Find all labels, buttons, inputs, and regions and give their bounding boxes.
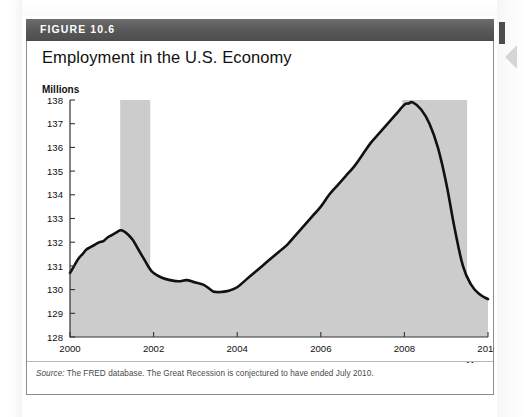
x-tick-label: 2004: [227, 343, 249, 354]
divider: [27, 361, 493, 362]
y-tick-label: 137: [47, 118, 63, 129]
y-tick-label: 132: [47, 237, 63, 248]
y-tick-label: 128: [47, 332, 63, 343]
y-tick-label: 129: [47, 308, 63, 319]
source-note: Source: The FRED database. The Great Rec…: [36, 369, 476, 378]
figure-number-badge: FIGURE 10.6: [40, 23, 115, 35]
source-label: Source:: [36, 369, 65, 378]
figure-page: FIGURE 10.6 Employment in the U.S. Econo…: [0, 0, 527, 417]
y-tick-label: 130: [47, 284, 63, 295]
y-tick-label: 138: [47, 95, 63, 106]
x-tick-label: 2000: [59, 343, 80, 354]
y-tick-label: 134: [47, 189, 64, 200]
x-tick-label: 2002: [143, 343, 164, 354]
y-tick-label: 136: [47, 142, 63, 153]
page-edge-top: [0, 0, 527, 16]
x-tick-label: 2006: [310, 343, 331, 354]
y-tick-label: 133: [47, 213, 63, 224]
x-tick-label: 2010: [477, 343, 494, 354]
employment-line-chart: 1281291301311321331341351361371382000200…: [26, 78, 494, 363]
page-tab-marker: [499, 22, 505, 44]
chevron-left-icon[interactable]: [503, 42, 521, 72]
figure-header-bar: FIGURE 10.6: [26, 19, 494, 41]
figure-title: Employment in the U.S. Economy: [42, 48, 292, 67]
chart-area: Millions 1281291301311321331341351361371…: [26, 78, 494, 363]
page-edge-left: [0, 0, 22, 417]
x-tick-label: 2008: [394, 343, 415, 354]
y-tick-label: 131: [47, 261, 63, 272]
y-tick-label: 135: [47, 166, 63, 177]
source-text: The FRED database. The Great Recession i…: [65, 369, 374, 378]
